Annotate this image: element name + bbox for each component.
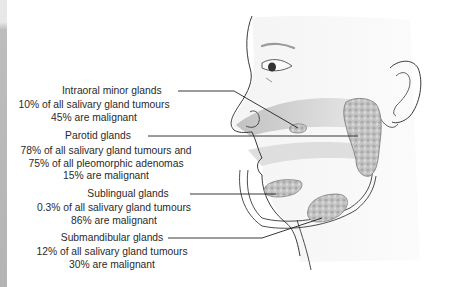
label-line: 10% of all salivary gland tumours [6, 99, 182, 112]
label-line: 75% of all pleomorphic adenomas [6, 158, 206, 171]
label-title: Parotid glands [48, 130, 148, 143]
label-sublingual-glands: Sublingual glands [68, 188, 188, 201]
label-line: 12% of all salivary gland tumours [24, 246, 200, 259]
intraoral-minor-gland [289, 124, 306, 133]
label-title: Submandibular glands [56, 232, 168, 245]
label-parotid-glands-stats: 78% of all salivary gland tumours and 75… [6, 145, 206, 183]
label-title: Sublingual glands [68, 188, 188, 201]
label-line: 0.3% of all salivary gland tumours [24, 202, 204, 215]
label-title: Intraoral minor glands [40, 85, 185, 98]
label-parotid-glands: Parotid glands [48, 130, 148, 143]
label-line: 78% of all salivary gland tumours and [6, 145, 206, 158]
eye-iris [268, 63, 276, 72]
label-intraoral-minor-glands: Intraoral minor glands [40, 85, 185, 98]
label-line: 45% are malignant [6, 112, 182, 125]
label-line: 15% are malignant [6, 170, 206, 183]
label-line: 30% are malignant [24, 259, 200, 272]
label-intraoral-minor-glands-stats: 10% of all salivary gland tumours 45% ar… [6, 99, 182, 124]
label-submandibular-glands: Submandibular glands [56, 232, 168, 245]
label-submandibular-glands-stats: 12% of all salivary gland tumours 30% ar… [24, 246, 200, 271]
label-sublingual-glands-stats: 0.3% of all salivary gland tumours 86% a… [24, 202, 204, 227]
label-line: 86% are malignant [24, 215, 204, 228]
